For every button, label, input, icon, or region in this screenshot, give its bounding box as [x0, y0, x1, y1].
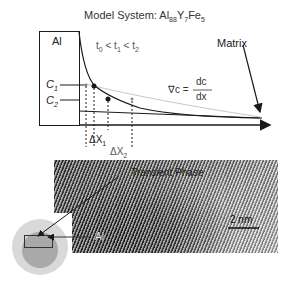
time-relation-label: t0 < t1 < t2: [96, 40, 139, 53]
matrix-label: Matrix: [217, 37, 247, 49]
gradient-numerator: dc: [196, 76, 207, 87]
transient-phase-arrow: [38, 177, 118, 236]
delta-x1-label: ΔX1: [89, 134, 106, 147]
delta-x2-label: ΔX2: [110, 146, 127, 159]
scale-bar-label: 2 nm: [230, 214, 252, 225]
gradient-lhs: ∇c =: [168, 84, 189, 95]
c1-label: C1: [46, 78, 58, 92]
c2-label: C2: [46, 94, 58, 108]
micrograph-al-label: Al: [95, 231, 104, 242]
al-box-label: Al: [52, 35, 62, 47]
gradient-denominator: dx: [196, 91, 207, 102]
transient-phase-label: Transient Phase: [131, 167, 203, 178]
